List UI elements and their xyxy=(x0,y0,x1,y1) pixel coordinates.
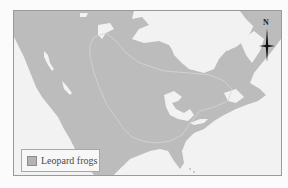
map-legend: Leopard frogs xyxy=(21,149,100,172)
map-frame: N Leopard frogs xyxy=(13,10,282,176)
compass-rose: N xyxy=(259,18,275,64)
legend-swatch-leopard-frogs xyxy=(27,156,37,166)
caribbean-island xyxy=(189,168,191,170)
caribbean-island-2 xyxy=(193,171,195,173)
legend-label-leopard-frogs: Leopard frogs xyxy=(41,156,97,166)
north-arrow-icon xyxy=(259,18,275,64)
